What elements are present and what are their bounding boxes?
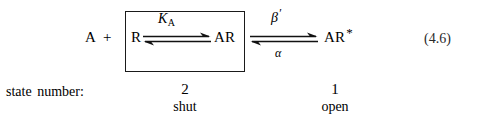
- species-agonist-A: A: [85, 30, 96, 45]
- rate-constant-beta-prime: β′: [271, 11, 281, 25]
- state-name-shut: shut: [150, 98, 220, 116]
- state-number-shut: 2: [150, 82, 220, 98]
- open-state-asterisk: *: [346, 25, 353, 40]
- species-open-receptor-label: AR: [324, 29, 345, 45]
- species-bound-receptor-AR: AR: [214, 30, 235, 45]
- equilibrium-arrow-icon-binding: [143, 32, 211, 48]
- state-column-shut: 2 shut: [150, 82, 220, 115]
- rate-constant-ka-subscript: A: [168, 17, 175, 28]
- state-number-open: 1: [300, 82, 370, 98]
- species-receptor-R: R: [131, 30, 141, 45]
- equation-number: (4.6): [424, 32, 451, 46]
- state-name-open: open: [300, 98, 370, 116]
- rate-constant-beta-symbol: β: [271, 10, 278, 25]
- equilibrium-arrow-icon-gating: [250, 32, 318, 48]
- species-open-receptor-AR-star: AR*: [324, 30, 353, 45]
- state-column-open: 1 open: [300, 82, 370, 115]
- rate-constant-beta-prime-mark: ′: [278, 6, 281, 20]
- rate-constant-alpha: α: [275, 47, 281, 59]
- plus-operator: +: [103, 30, 111, 45]
- state-number-label: state number:: [6, 85, 84, 99]
- rate-constant-ka: KA: [158, 12, 175, 26]
- equation-figure: A + R KA AR β′ α AR* (4.6) state number:: [0, 0, 485, 124]
- rate-constant-ka-symbol: K: [158, 11, 167, 26]
